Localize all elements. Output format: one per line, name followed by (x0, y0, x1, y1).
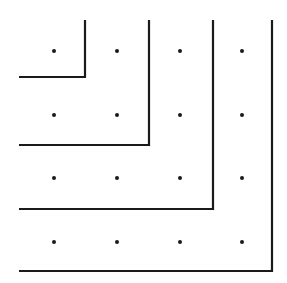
dot-r1-c1 (52, 49, 56, 53)
dot-r4-c1 (52, 240, 56, 244)
dot-r2-c3 (178, 113, 182, 117)
dot-r3-c4 (240, 176, 244, 180)
dot-r3-c2 (115, 176, 119, 180)
gnomon-dot-diagram (0, 0, 287, 283)
l-shape-1 (19, 20, 85, 77)
dot-r4-c3 (178, 240, 182, 244)
dot-r2-c2 (115, 113, 119, 117)
dot-r3-c3 (178, 176, 182, 180)
dot-r4-c4 (240, 240, 244, 244)
dot-r1-c4 (240, 49, 244, 53)
dot-r3-c1 (52, 176, 56, 180)
dot-r2-c4 (240, 113, 244, 117)
dot-r1-c3 (178, 49, 182, 53)
dot-r2-c1 (52, 113, 56, 117)
dot-r4-c2 (115, 240, 119, 244)
dot-r1-c2 (115, 49, 119, 53)
